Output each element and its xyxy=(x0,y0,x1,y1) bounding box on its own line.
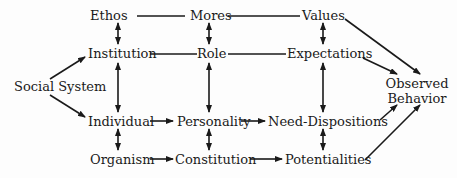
node-organism: Organism xyxy=(90,152,154,167)
node-potentialities: Potentialities xyxy=(285,152,372,167)
node-values: Values xyxy=(302,8,345,23)
node-observed-behavior: Observed Behavior xyxy=(382,76,452,106)
node-personality: Personality xyxy=(177,114,251,129)
social-system-diagram: Ethos Mores Values Institution Role Expe… xyxy=(0,0,457,178)
node-individual: Individual xyxy=(88,114,154,129)
node-expectations: Expectations xyxy=(287,46,372,61)
observed-behavior-line1: Observed xyxy=(382,76,452,91)
node-role: Role xyxy=(197,46,226,61)
node-mores: Mores xyxy=(190,8,232,23)
node-ethos: Ethos xyxy=(90,8,128,23)
node-constitution: Constitution xyxy=(175,152,256,167)
node-social-system: Social System xyxy=(14,79,106,94)
node-need-dispositions: Need-Dispositions xyxy=(268,114,388,129)
node-institution: Institution xyxy=(88,46,157,61)
observed-behavior-line2: Behavior xyxy=(382,91,452,106)
